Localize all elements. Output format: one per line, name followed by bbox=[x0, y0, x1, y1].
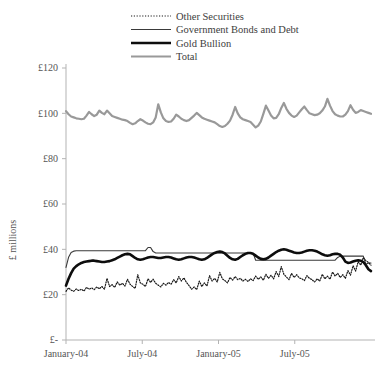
y-tick-label-0: £- bbox=[50, 334, 58, 345]
legend-label-4: Total bbox=[176, 51, 198, 62]
legend-label-1: Other Securities bbox=[176, 11, 244, 22]
line-chart: Other SecuritiesGovernment Bonds and Deb… bbox=[0, 0, 385, 383]
y-tick-label-6: £120 bbox=[38, 62, 58, 73]
legend-label-2: Government Bonds and Debt bbox=[176, 24, 299, 35]
y-tick-label-3: £60 bbox=[43, 198, 58, 209]
y-tick-label-2: £40 bbox=[43, 244, 58, 255]
y-axis-title: £ millions bbox=[7, 220, 18, 260]
series-line-other-securities bbox=[66, 257, 371, 291]
chart-container: Other SecuritiesGovernment Bonds and Deb… bbox=[0, 0, 385, 383]
x-tick-label-0: January-04 bbox=[44, 348, 88, 359]
series-line-total bbox=[66, 99, 371, 128]
y-tick-label-4: £80 bbox=[43, 153, 58, 164]
legend-label-3: Gold Bullion bbox=[176, 38, 232, 49]
series-line-gold-bullion bbox=[66, 249, 371, 285]
chart-series bbox=[66, 99, 371, 291]
y-tick-label-5: £100 bbox=[38, 108, 58, 119]
x-tick-label-1: July-04 bbox=[127, 348, 157, 359]
chart-legend: Other SecuritiesGovernment Bonds and Deb… bbox=[131, 11, 299, 63]
y-tick-label-1: £20 bbox=[43, 289, 58, 300]
x-tick-label-3: July-05 bbox=[280, 348, 310, 359]
x-tick-label-2: January-05 bbox=[196, 348, 240, 359]
